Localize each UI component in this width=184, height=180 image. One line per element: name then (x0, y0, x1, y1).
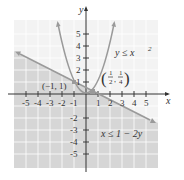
svg-text:-5: -5 (22, 98, 30, 108)
svg-text:1: 1 (76, 77, 81, 87)
svg-text:): ) (124, 69, 130, 88)
y-axis-arrow-icon (84, 6, 88, 11)
point-label-1: (−1, 1) (42, 81, 67, 91)
svg-text:-4: -4 (34, 98, 42, 108)
svg-text:-3: -3 (70, 125, 78, 135)
svg-text:4: 4 (119, 78, 123, 86)
svg-text:2: 2 (109, 78, 113, 86)
svg-text:-4: -4 (70, 137, 78, 147)
svg-text:,: , (114, 75, 116, 84)
svg-text:1: 1 (119, 69, 123, 77)
svg-text:4: 4 (76, 41, 81, 51)
svg-text:(: ( (101, 69, 107, 88)
svg-text:-5: -5 (70, 149, 78, 159)
parabola-label: y ≤ x (114, 47, 135, 58)
svg-text:-3: -3 (46, 98, 54, 108)
svg-text:1: 1 (96, 98, 101, 108)
svg-text:-1: -1 (70, 98, 78, 108)
svg-text:-2: -2 (70, 113, 78, 123)
svg-text:2: 2 (76, 65, 81, 75)
svg-text:5: 5 (144, 98, 149, 108)
parabola-label-exponent: 2 (148, 45, 152, 53)
graph: -5 -4 -3 -2 -1 1 2 3 4 5 5 4 3 2 1 -2 -3… (0, 0, 184, 180)
svg-text:3: 3 (120, 98, 125, 108)
line-label: x ≤ 1 − 2y (100, 128, 143, 139)
svg-text:2: 2 (108, 98, 113, 108)
x-axis-label: x (165, 95, 171, 106)
point-marker-2 (90, 89, 95, 94)
svg-text:-2: -2 (58, 98, 66, 108)
svg-text:3: 3 (76, 53, 81, 63)
svg-text:1: 1 (109, 69, 113, 77)
y-axis-label: y (78, 4, 84, 15)
svg-text:5: 5 (76, 29, 81, 39)
svg-text:4: 4 (132, 98, 137, 108)
